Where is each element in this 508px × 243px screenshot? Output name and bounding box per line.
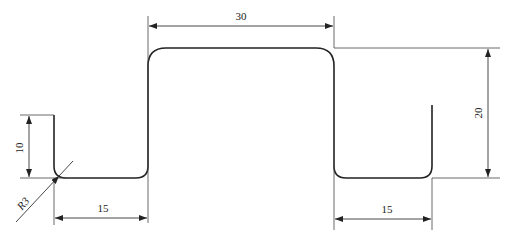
- radius-label: R3: [14, 195, 32, 213]
- leg-height-label: 10: [13, 142, 25, 154]
- left-flange-label: 15: [98, 202, 110, 214]
- profile-outline: [54, 48, 432, 178]
- top-width-label: 30: [236, 10, 248, 22]
- radius-leader-extension: [59, 161, 73, 176]
- profile-drawing: 30 20 10 15 15 R3: [0, 0, 508, 243]
- right-flange-label: 15: [382, 203, 394, 215]
- height-label: 20: [472, 107, 484, 119]
